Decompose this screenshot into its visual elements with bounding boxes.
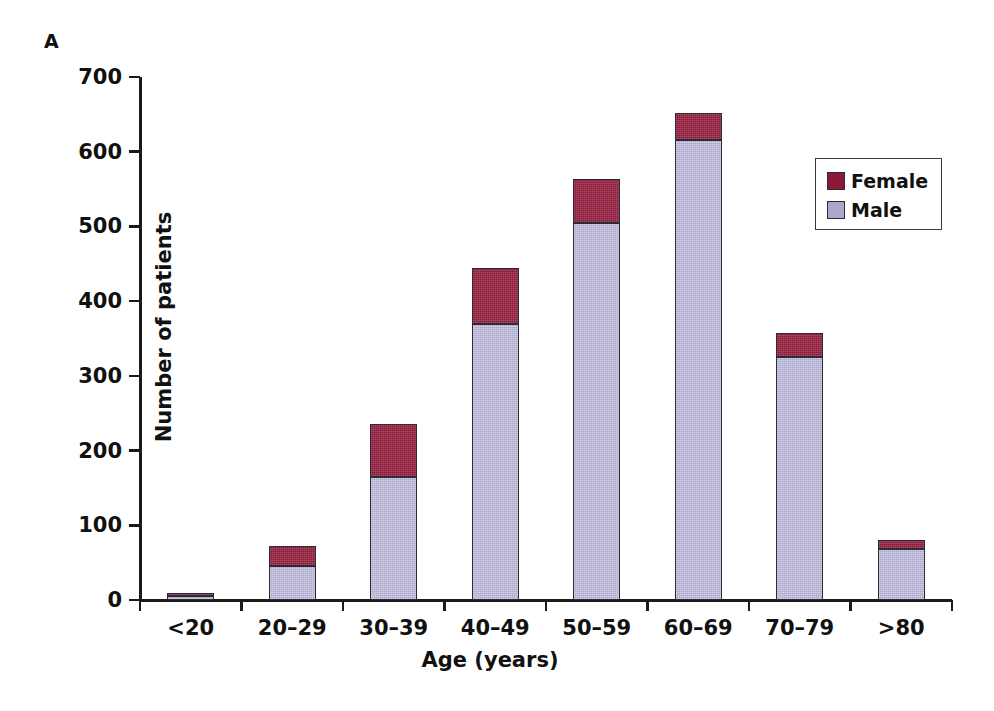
- x-tick-mark: [443, 600, 446, 611]
- y-tick-label: 600: [2, 140, 122, 164]
- legend-label: Female: [851, 170, 928, 192]
- x-tick-label: 70–79: [765, 616, 834, 640]
- y-tick-label: 400: [2, 289, 122, 313]
- bar-stack: [370, 424, 417, 600]
- x-tick-label: 60–69: [664, 616, 733, 640]
- y-tick-label: 700: [2, 65, 122, 89]
- bar-segment-female: [472, 268, 519, 323]
- bar-segment-male: [573, 223, 620, 600]
- y-tick-mark: [129, 375, 140, 378]
- x-tick-mark: [646, 600, 649, 611]
- bar-segment-male: [472, 324, 519, 600]
- bar-segment-female: [878, 540, 925, 550]
- x-tick-label: 30–39: [359, 616, 428, 640]
- x-tick-mark: [139, 600, 142, 611]
- panel-letter-label: A: [44, 30, 59, 52]
- x-tick-label: <20: [167, 616, 214, 640]
- y-tick-mark: [129, 150, 140, 153]
- bar-stack: [167, 593, 214, 600]
- x-tick-label: >80: [878, 616, 925, 640]
- x-tick-mark: [342, 600, 345, 611]
- legend-item: Female: [827, 166, 941, 195]
- bar-segment-female: [269, 546, 316, 566]
- y-tick-mark: [129, 76, 140, 79]
- bar-stack: [776, 333, 823, 600]
- y-tick-mark: [129, 524, 140, 527]
- y-tick-label: 500: [2, 214, 122, 238]
- bar-segment-male: [370, 477, 417, 600]
- bar-stack: [573, 179, 620, 600]
- y-tick-label: 100: [2, 513, 122, 537]
- y-axis-title: Number of patients: [152, 117, 176, 537]
- y-tick-label: 300: [2, 364, 122, 388]
- bar-segment-male: [167, 596, 214, 600]
- x-tick-label: 50–59: [562, 616, 631, 640]
- x-tick-mark: [951, 600, 954, 611]
- female-swatch: [827, 172, 845, 190]
- chart-legend: FemaleMale: [815, 158, 942, 230]
- x-tick-mark: [545, 600, 548, 611]
- x-axis-title: Age (years): [140, 648, 840, 672]
- x-tick-mark: [748, 600, 751, 611]
- bar-segment-male: [269, 566, 316, 600]
- bar-segment-male: [878, 549, 925, 600]
- bar-segment-female: [370, 424, 417, 477]
- bar-stack: [675, 113, 722, 600]
- bar-stack: [269, 546, 316, 600]
- bar-segment-female: [675, 113, 722, 140]
- bar-segment-female: [167, 593, 214, 595]
- bar-stack: [472, 268, 519, 600]
- bar-segment-female: [776, 333, 823, 357]
- figure-panel-a: A 0100200300400500600700 <2020–2930–3940…: [0, 0, 994, 711]
- y-tick-mark: [129, 300, 140, 303]
- bar-segment-male: [776, 357, 823, 600]
- y-tick-label: 200: [2, 439, 122, 463]
- y-tick-mark: [129, 449, 140, 452]
- male-swatch: [827, 201, 845, 219]
- bar-stack: [878, 539, 925, 600]
- legend-item: Male: [827, 195, 941, 224]
- plot-area: Number of patients: [140, 77, 952, 600]
- bar-segment-male: [675, 140, 722, 600]
- legend-label: Male: [851, 199, 902, 221]
- y-tick-mark: [129, 225, 140, 228]
- bar-segment-female: [573, 179, 620, 222]
- x-tick-label: 20–29: [258, 616, 327, 640]
- x-tick-mark: [240, 600, 243, 611]
- x-tick-label: 40–49: [461, 616, 530, 640]
- y-tick-label: 0: [2, 588, 122, 612]
- x-tick-mark: [849, 600, 852, 611]
